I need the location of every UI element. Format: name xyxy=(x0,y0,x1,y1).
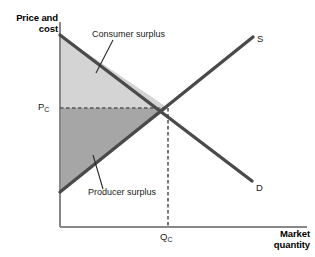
equilibrium-quantity-label: QC xyxy=(160,231,172,242)
supply-curve-label: S xyxy=(257,33,263,44)
x-axis-title: Market quantity xyxy=(240,228,310,250)
demand-curve-label: D xyxy=(256,182,263,193)
equilibrium-price-label: PC xyxy=(38,101,49,112)
surplus-diagram: Price and cost Market quantity S D PC QC… xyxy=(0,0,315,257)
producer-surplus-annotation: Producer surplus xyxy=(88,187,156,197)
equilibrium-price-subscript: C xyxy=(44,106,49,113)
consumer-surplus-annotation: Consumer surplus xyxy=(92,29,165,39)
equilibrium-quantity-subscript: C xyxy=(167,236,172,243)
y-axis-title: Price and cost xyxy=(6,12,58,34)
